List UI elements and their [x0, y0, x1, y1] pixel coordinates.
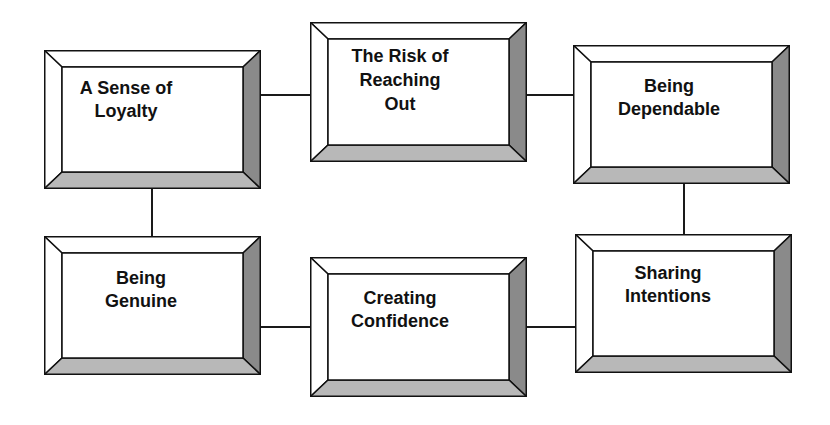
diagram-canvas: A Sense of Loyalty The Risk of Reaching … — [0, 0, 830, 425]
node-confidence: Creating Confidence — [310, 257, 527, 397]
connector-dependable-intentions — [683, 184, 685, 234]
connector-intentions-confidence — [527, 326, 575, 328]
node-intentions: Sharing Intentions — [575, 234, 792, 373]
node-risk: The Risk of Reaching Out — [310, 22, 527, 162]
node-label: A Sense of Loyalty — [66, 77, 186, 123]
node-label: The Risk of Reaching Out — [340, 44, 460, 116]
node-label: Being Genuine — [86, 267, 196, 313]
connector-risk-dependable — [527, 94, 573, 96]
connector-genuine-loyalty — [151, 189, 153, 236]
node-label: Sharing Intentions — [613, 262, 723, 308]
node-loyalty: A Sense of Loyalty — [44, 50, 261, 189]
connector-confidence-genuine — [261, 326, 310, 328]
node-dependable: Being Dependable — [573, 45, 790, 184]
node-label: Creating Confidence — [340, 287, 460, 333]
connector-loyalty-risk — [261, 94, 310, 96]
node-label: Being Dependable — [605, 75, 733, 121]
node-genuine: Being Genuine — [44, 236, 261, 375]
